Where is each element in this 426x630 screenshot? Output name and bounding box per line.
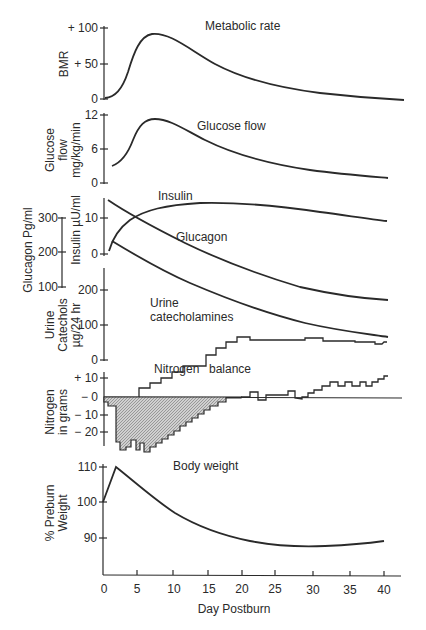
body-weight-curve bbox=[103, 467, 384, 546]
x-tick-label: 30 bbox=[306, 583, 320, 597]
glucagon-tick-label: 200 bbox=[38, 245, 58, 259]
weight-tick-label: 100 bbox=[77, 495, 97, 509]
insulin-axis-label: Insulin µU/ml bbox=[69, 195, 83, 265]
weight-axis-label: % Preburn bbox=[43, 485, 57, 542]
x-tick-label: 35 bbox=[343, 583, 357, 597]
insulin-tick-label: 0 bbox=[91, 247, 98, 261]
x-tick-label: 40 bbox=[377, 583, 391, 597]
metabolic-rate-curve bbox=[105, 34, 404, 100]
x-tick-label: 15 bbox=[202, 582, 216, 596]
glucose-tick-label: 12 bbox=[85, 108, 99, 122]
catechol-tick-label: 200 bbox=[78, 283, 98, 297]
catechol-axis-label: Catechols bbox=[56, 298, 70, 351]
nitrogen-deficit-area bbox=[104, 397, 241, 452]
nitrogen-tick-label: − 0 bbox=[81, 390, 98, 404]
glucose-tick-label: 0 bbox=[91, 176, 98, 190]
nitrogen-axis-unit: in grams bbox=[56, 389, 70, 435]
glucose-axis-label: Glucose bbox=[43, 128, 57, 172]
x-tick-label: 10 bbox=[167, 582, 181, 596]
weight-tick-label: 110 bbox=[78, 460, 97, 474]
metabolic-rate-panel: + 100 + 50 0 BMR Metabolic rate bbox=[57, 19, 404, 106]
x-tick-label: 25 bbox=[268, 582, 282, 596]
balance-label: balance bbox=[209, 362, 251, 376]
nitrogen-tick-label: + 10 bbox=[74, 371, 98, 385]
glucose-axis-unit: mg/kg/min bbox=[69, 122, 83, 177]
x-axis bbox=[103, 575, 401, 576]
nitrogen-label: Nitrogen bbox=[154, 362, 199, 376]
postburn-metabolic-chart: + 100 + 50 0 BMR Metabolic rate 12 6 0 G… bbox=[0, 0, 426, 630]
bmr-tick-label: + 100 bbox=[68, 21, 99, 35]
catecholamines-label: catecholamines bbox=[150, 310, 233, 324]
nitrogen-tick-label: − 20 bbox=[74, 425, 98, 439]
glucagon-tick-label: 100 bbox=[38, 280, 58, 294]
metabolic-rate-label: Metabolic rate bbox=[205, 19, 281, 33]
glucose-axis-label: flow bbox=[56, 139, 70, 161]
glucose-flow-label: Glucose flow bbox=[197, 119, 266, 133]
body-weight-label: Body weight bbox=[173, 459, 239, 473]
insulin-tick-label: 10 bbox=[85, 211, 99, 225]
urine-label: Urine bbox=[150, 296, 179, 310]
glucose-flow-panel: 12 6 0 Glucose flow mg/kg/min Glucose fl… bbox=[43, 108, 388, 190]
nitrogen-tick-label: − 10 bbox=[74, 408, 98, 422]
bmr-tick-label: + 50 bbox=[74, 57, 98, 71]
insulin-curve bbox=[109, 203, 387, 251]
weight-tick-label: 90 bbox=[84, 531, 98, 545]
insulin-label: Insulin bbox=[158, 189, 193, 203]
bmr-axis-label: BMR bbox=[57, 50, 71, 77]
x-tick-label: 20 bbox=[235, 582, 249, 596]
catechol-tick-label: 0 bbox=[91, 353, 98, 367]
insulin-glucagon-panel: 300 200 100 Glucagon Pg/ml 10 0 Insulin … bbox=[21, 189, 388, 300]
glucagon-tick-label: 300 bbox=[38, 211, 58, 225]
catechol-axis-unit: µg/24 hr bbox=[69, 303, 83, 347]
weight-axis-label: Weight bbox=[56, 494, 70, 532]
glucose-tick-label: 6 bbox=[91, 142, 98, 156]
x-tick-label: 0 bbox=[101, 582, 108, 596]
x-tick-label: 5 bbox=[134, 582, 141, 596]
catechol-axis-label: Urine bbox=[43, 310, 57, 339]
body-weight-panel: 110 100 90 % Preburn Weight Body weight … bbox=[43, 459, 401, 616]
nitrogen-axis-label: Nitrogen bbox=[43, 389, 57, 434]
x-axis-label: Day Postburn bbox=[198, 602, 271, 616]
bmr-tick-label: 0 bbox=[91, 92, 98, 106]
nitrogen-daily-balance-step bbox=[241, 376, 388, 400]
glucagon-axis-label: Glucagon Pg/ml bbox=[21, 207, 35, 292]
